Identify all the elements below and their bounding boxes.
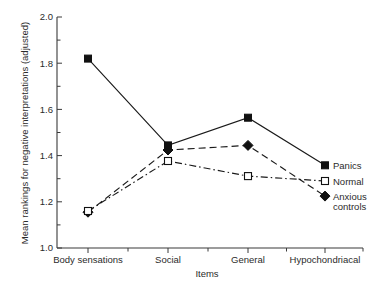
x-tick-label-social: Social [155,254,181,265]
x-tick-label-general: General [231,254,265,265]
series-panics-line [88,59,325,166]
x-tick-label-hypochondriacal: Hypochondriacal [290,254,361,265]
y-tick-label-1.0: 1.0 [40,242,53,253]
series-normal-line [88,161,325,211]
legend-label-anxious-line1: Anxious [333,191,367,202]
data-point-normal-general [245,173,252,180]
y-axis-title: Mean rankings for negative interpretatio… [19,22,30,244]
legend-label-anxious-line2: controls [333,201,367,212]
x-axis-title: Items [195,268,218,279]
data-point-normal-social [165,158,172,165]
data-point-anxious-general [243,140,253,150]
legend-label-normal: Normal [333,176,364,187]
data-point-anxious-hypochondriacal [320,191,330,201]
x-tick-label-body-sensations: Body sensations [53,254,123,265]
data-point-normal-hypochondriacal [322,178,329,185]
data-point-panics-body-sensations [85,55,92,62]
data-point-panics-general [245,114,252,121]
chart-page: 1.0 1.2 1.4 1.6 1.8 2.0 Body sensations … [0,0,379,292]
y-tick-label-1.2: 1.2 [40,196,53,207]
legend-label-panics: Panics [333,160,362,171]
legend: Panics Normal Anxious controls [333,160,367,212]
y-tick-label-1.8: 1.8 [40,58,53,69]
line-chart: 1.0 1.2 1.4 1.6 1.8 2.0 Body sensations … [0,0,379,292]
data-point-normal-body-sensations [85,208,92,215]
data-point-panics-hypochondriacal [322,162,329,169]
series-panics [85,55,329,169]
y-tick-label-2.0: 2.0 [40,11,53,22]
series-normal [85,158,329,215]
y-tick-label-1.4: 1.4 [40,150,53,161]
series-anxious-controls-line [88,145,325,212]
x-axis-major-ticks [88,248,325,253]
y-tick-label-1.6: 1.6 [40,104,53,115]
